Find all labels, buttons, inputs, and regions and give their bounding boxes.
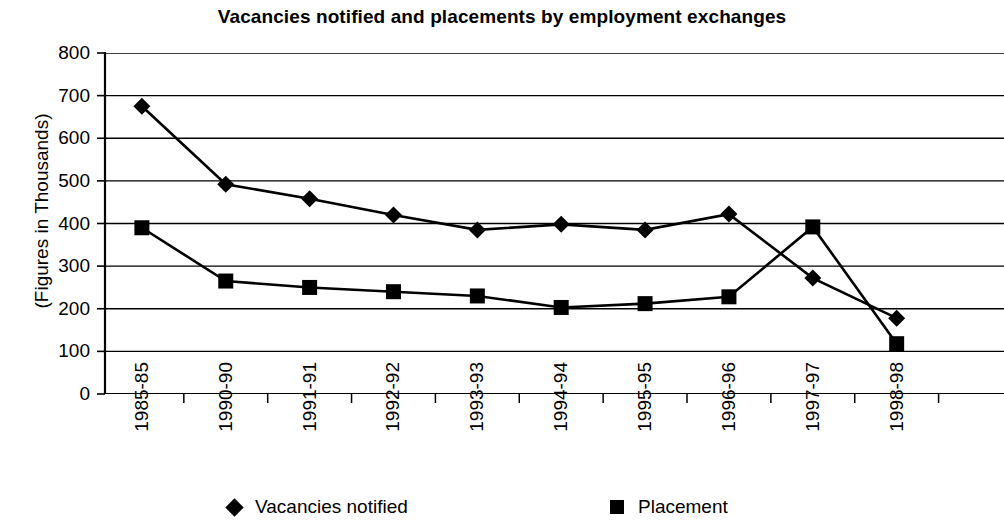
y-axis-tick-label: 100: [28, 341, 90, 360]
y-axis-tick-label: 0: [28, 384, 90, 403]
data-point-square: [889, 336, 904, 351]
x-axis-tick-label: 1991-91: [300, 362, 319, 462]
data-point-diamond: [385, 206, 402, 223]
y-axis-tick-label: 200: [28, 299, 90, 318]
x-axis-tick-labels: 1985-851990-901991-911992-921993-931994-…: [105, 394, 1004, 494]
legend-label: Placement: [638, 496, 728, 518]
y-axis-tick-label: 500: [28, 171, 90, 190]
y-axis-tick-label: 800: [28, 43, 90, 62]
x-axis-tick-label: 1994-94: [551, 362, 570, 462]
x-axis-tick-label: 1998-98: [887, 362, 906, 462]
data-point-diamond: [553, 216, 570, 233]
plot-canvas: [105, 53, 1004, 394]
chart-legend: Vacancies notified Placement: [0, 494, 1004, 523]
chart-title: Vacancies notified and placements by emp…: [0, 6, 1004, 28]
data-point-diamond: [301, 190, 318, 207]
legend-entry-placement: Placement: [610, 494, 728, 520]
legend-label: Vacancies notified: [255, 496, 408, 518]
y-axis-tick-label: 300: [28, 256, 90, 275]
series-line-1: [142, 227, 897, 344]
data-point-square: [805, 219, 820, 234]
x-axis-tick-label: 1995-95: [635, 362, 654, 462]
data-point-square: [554, 300, 569, 315]
data-point-square: [721, 289, 736, 304]
data-point-square: [386, 284, 401, 299]
diamond-marker-icon: [225, 498, 243, 516]
y-axis-tick-label: 400: [28, 214, 90, 233]
y-axis-tick-label: 700: [28, 86, 90, 105]
y-axis-tick-label: 600: [28, 128, 90, 147]
chart-container: Vacancies notified and placements by emp…: [0, 0, 1004, 523]
x-axis-tick-label: 1990-90: [216, 362, 235, 462]
y-axis-tick-labels: 8007006005004003002001000: [28, 0, 90, 523]
x-axis-tick-label: 1992-92: [383, 362, 402, 462]
data-point-square: [470, 288, 485, 303]
x-axis-tick-label: 1996-96: [719, 362, 738, 462]
data-point-square: [302, 280, 317, 295]
x-axis-tick-label: 1997-97: [803, 362, 822, 462]
plot-area: [105, 53, 1004, 394]
legend-entry-vacancies-notified: Vacancies notified: [228, 494, 408, 520]
x-axis-tick-label: 1985-85: [132, 362, 151, 462]
data-point-square: [134, 220, 149, 235]
data-point-square: [638, 296, 653, 311]
data-point-square: [218, 274, 233, 289]
x-axis-tick-label: 1993-93: [467, 362, 486, 462]
data-point-diamond: [888, 310, 905, 327]
square-marker-icon: [610, 500, 624, 514]
